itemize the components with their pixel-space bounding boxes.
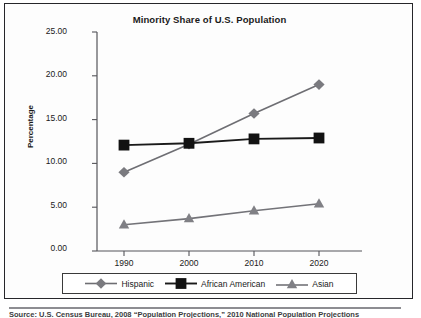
chart-area: Minority Share of U.S. Population Percen… [5, 4, 414, 300]
series-asian [119, 198, 324, 228]
legend-label-asian: Asian [312, 279, 333, 289]
legend-label-african-american: African American [201, 279, 265, 289]
source-note: Source: U.S. Census Bureau, 2008 “Popula… [9, 310, 409, 318]
plot-svg [5, 4, 414, 300]
x-axis-ticks [124, 251, 319, 256]
square-marker-icon [165, 277, 197, 290]
figure-frame: Minority Share of U.S. Population Percen… [4, 3, 413, 299]
legend-entry-african-american[interactable]: African American [165, 277, 265, 290]
triangle-marker-icon [276, 277, 308, 290]
legend-label-hispanic: Hispanic [121, 279, 154, 289]
source-divider [9, 307, 401, 309]
chart-legend: Hispanic African American Asian [62, 273, 357, 294]
series-hispanic [118, 79, 324, 177]
series-african-american [119, 133, 325, 151]
legend-entry-asian[interactable]: Asian [276, 277, 333, 290]
legend-entry-hispanic[interactable]: Hispanic [85, 277, 154, 290]
diamond-marker-icon [85, 277, 117, 290]
y-axis-ticks [92, 32, 97, 251]
